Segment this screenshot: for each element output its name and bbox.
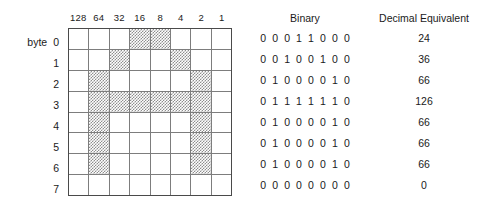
bitmap-cell-1-2 xyxy=(110,50,130,70)
bitmap-cell-7-1 xyxy=(89,175,109,195)
decimal-value-7: 0 xyxy=(360,178,488,192)
byte-index: 3 xyxy=(53,99,59,111)
bitmap-cell-4-4 xyxy=(151,113,171,133)
byte-label-3: 3 xyxy=(53,98,59,112)
bitmap-cell-6-2 xyxy=(110,154,130,174)
decimal-value-6: 66 xyxy=(360,157,488,171)
bitmap-grid-block: 1286432168421 xyxy=(68,28,232,196)
bitmap-cell-0-6 xyxy=(191,29,211,49)
bitmap-cell-3-6 xyxy=(191,92,211,112)
byte-index: 5 xyxy=(53,141,59,153)
byte-label-6: 6 xyxy=(53,161,59,175)
bitmap-cell-7-2 xyxy=(110,175,130,195)
bitmap-cell-7-4 xyxy=(151,175,171,195)
bitmap-cell-0-7 xyxy=(212,29,231,49)
byte-label-2: 2 xyxy=(53,77,59,91)
bitmap-cell-7-3 xyxy=(130,175,150,195)
bitmap-cell-1-1 xyxy=(89,50,109,70)
binary-value-6: 0 1 0 0 0 0 1 0 xyxy=(250,157,360,171)
bitmap-cell-6-3 xyxy=(130,154,150,174)
bitmap-cell-0-2 xyxy=(110,29,130,49)
bitmap-cell-0-3 xyxy=(130,29,150,49)
decimal-value-1: 36 xyxy=(360,52,488,66)
bitmap-cell-2-0 xyxy=(69,71,89,91)
bitmap-cell-7-7 xyxy=(212,175,231,195)
bitmap-cell-2-2 xyxy=(110,71,130,91)
byte-index: 7 xyxy=(53,183,59,195)
bitmap-cell-1-0 xyxy=(69,50,89,70)
bitmap-cell-5-1 xyxy=(89,133,109,153)
bit-weight-1: 1 xyxy=(212,10,233,26)
bitmap-row xyxy=(69,92,231,113)
bitmap-cell-2-3 xyxy=(130,71,150,91)
binary-value-4: 0 1 0 0 0 0 1 0 xyxy=(250,115,360,129)
bitmap-cell-5-2 xyxy=(110,133,130,153)
byte-index: 2 xyxy=(53,78,59,90)
bitmap-cell-0-5 xyxy=(171,29,191,49)
bitmap-cell-1-5 xyxy=(171,50,191,70)
bitmap-cell-3-0 xyxy=(69,92,89,112)
binary-column: Binary 0 0 0 1 1 0 0 00 0 1 0 0 1 0 00 1… xyxy=(250,28,360,196)
bitmap-cell-5-5 xyxy=(171,133,191,153)
bitmap-cell-1-3 xyxy=(130,50,150,70)
bitmap-row xyxy=(69,113,231,134)
bitmap-cell-5-7 xyxy=(212,133,231,153)
bit-weight-8: 8 xyxy=(150,10,171,26)
bitmap-row xyxy=(69,154,231,175)
byte-index: 1 xyxy=(53,57,59,69)
byte-word-label: byte xyxy=(27,36,47,48)
bit-weight-64: 64 xyxy=(89,10,110,26)
byte-index: 4 xyxy=(53,120,59,132)
binary-value-0: 0 0 0 1 1 0 0 0 xyxy=(250,31,360,45)
bitmap-cell-5-6 xyxy=(191,133,211,153)
bitmap-cell-3-2 xyxy=(110,92,130,112)
bitmap-cell-1-6 xyxy=(191,50,211,70)
bitmap-cell-6-1 xyxy=(89,154,109,174)
decimal-column-header: Decimal Equivalent xyxy=(360,11,488,25)
bitmap-cell-5-3 xyxy=(130,133,150,153)
bitmap-cell-2-5 xyxy=(171,71,191,91)
bitmap-cell-2-4 xyxy=(151,71,171,91)
bitmap-cell-3-7 xyxy=(212,92,231,112)
bitmap-cell-3-4 xyxy=(151,92,171,112)
bitmap-cell-7-6 xyxy=(191,175,211,195)
decimal-value-5: 66 xyxy=(360,136,488,150)
bitmap-cell-4-6 xyxy=(191,113,211,133)
bitmap-cell-2-1 xyxy=(89,71,109,91)
bitmap-cell-4-2 xyxy=(110,113,130,133)
byte-label-7: 7 xyxy=(53,182,59,196)
bitmap-cell-7-0 xyxy=(69,175,89,195)
bitmap-cell-4-0 xyxy=(69,113,89,133)
bitmap-cell-3-5 xyxy=(171,92,191,112)
decimal-value-3: 126 xyxy=(360,94,488,108)
binary-column-header: Binary xyxy=(250,11,360,25)
bitmap-cell-1-7 xyxy=(212,50,231,70)
bitmap-cell-0-1 xyxy=(89,29,109,49)
bitmap-grid xyxy=(68,28,232,196)
bitmap-cell-5-0 xyxy=(69,133,89,153)
bitmap-row xyxy=(69,175,231,195)
byte-index: 6 xyxy=(53,162,59,174)
bitmap-cell-4-1 xyxy=(89,113,109,133)
bitmap-row xyxy=(69,50,231,71)
byte-label-column: byte01234567 xyxy=(0,32,64,200)
bitmap-cell-0-4 xyxy=(151,29,171,49)
bit-weight-32: 32 xyxy=(109,10,130,26)
bitmap-cell-6-4 xyxy=(151,154,171,174)
decimal-column: Decimal Equivalent 2436661266666660 xyxy=(360,28,488,196)
bitmap-cell-6-7 xyxy=(212,154,231,174)
bitmap-cell-4-7 xyxy=(212,113,231,133)
binary-value-1: 0 0 1 0 0 1 0 0 xyxy=(250,52,360,66)
bitmap-cell-3-1 xyxy=(89,92,109,112)
bitmap-cell-0-0 xyxy=(69,29,89,49)
bit-weight-header-row: 1286432168421 xyxy=(68,10,232,26)
bitmap-cell-7-5 xyxy=(171,175,191,195)
binary-value-7: 0 0 0 0 0 0 0 0 xyxy=(250,178,360,192)
byte-label-1: 1 xyxy=(53,56,59,70)
bitmap-cell-4-5 xyxy=(171,113,191,133)
bitmap-cell-5-4 xyxy=(151,133,171,153)
decimal-value-4: 66 xyxy=(360,115,488,129)
bit-weight-128: 128 xyxy=(68,10,89,26)
bitmap-cell-4-3 xyxy=(130,113,150,133)
bit-weight-2: 2 xyxy=(191,10,212,26)
